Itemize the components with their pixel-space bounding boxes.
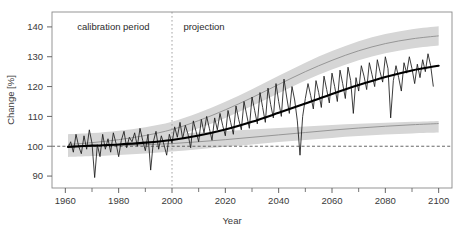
chart-figure: 90100110120130140 1960198020002020204020… bbox=[0, 0, 466, 237]
x-axis-title: Year bbox=[222, 215, 241, 226]
y-tick-label: 130 bbox=[27, 51, 43, 62]
x-tick-label: 2000 bbox=[161, 195, 182, 206]
x-tick-label: 1960 bbox=[55, 195, 76, 206]
y-tick-label: 140 bbox=[27, 21, 43, 32]
x-tick-label: 1980 bbox=[108, 195, 129, 206]
x-tick-label: 2020 bbox=[215, 195, 236, 206]
y-tick-label: 90 bbox=[32, 170, 43, 181]
y-axis-title: Change [%] bbox=[5, 75, 16, 125]
y-tick-label: 110 bbox=[28, 111, 43, 122]
x-tick-label: 2060 bbox=[321, 195, 342, 206]
calibration-period-label: calibration period bbox=[77, 21, 149, 32]
chart-canvas: 90100110120130140 1960198020002020204020… bbox=[0, 0, 466, 237]
y-tick-label: 100 bbox=[27, 141, 43, 152]
x-tick-label: 2040 bbox=[268, 195, 289, 206]
projection-label: projection bbox=[183, 21, 224, 32]
x-tick-label: 2080 bbox=[375, 195, 396, 206]
x-tick-label: 2100 bbox=[428, 195, 449, 206]
y-tick-label: 120 bbox=[27, 81, 43, 92]
